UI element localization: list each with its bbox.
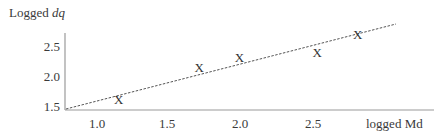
data-point-marker: X [313,45,323,60]
data-point-marker: X [195,60,205,75]
data-point-marker: X [353,27,363,42]
plot-area: XXXXX [0,0,447,139]
data-point-marker: X [235,50,245,65]
data-point-marker: X [114,92,124,107]
data-markers: XXXXX [114,27,363,107]
